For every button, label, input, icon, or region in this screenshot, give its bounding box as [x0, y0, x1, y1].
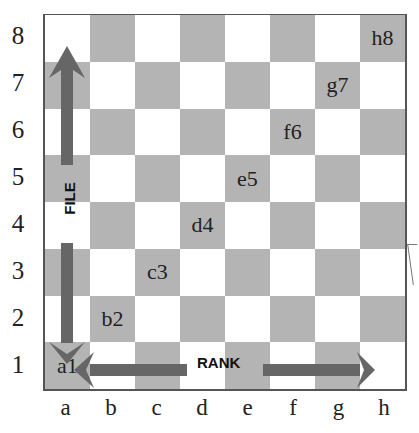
square-b8 — [90, 15, 135, 62]
square-f1 — [270, 342, 315, 389]
square-b7 — [90, 62, 135, 109]
square-f7 — [270, 62, 315, 109]
square-g8 — [315, 15, 360, 62]
cropped-edge-fragment — [407, 244, 419, 285]
square-c7 — [135, 62, 180, 109]
rank-label-8: 8 — [0, 22, 36, 50]
chessboard: h8g7f6e5d4c3b2a1 — [43, 14, 407, 391]
square-g1 — [315, 342, 360, 389]
square-c6 — [135, 109, 180, 156]
square-g4 — [315, 202, 360, 249]
square-b3 — [90, 249, 135, 296]
square-c5 — [135, 155, 180, 202]
square-c4 — [135, 202, 180, 249]
square-d4: d4 — [180, 202, 225, 249]
square-h3 — [360, 249, 405, 296]
square-g6 — [315, 109, 360, 156]
square-e7 — [225, 62, 270, 109]
rank-label: RANK — [197, 354, 240, 371]
file-label-g: g — [316, 395, 361, 421]
rank-label-1: 1 — [0, 351, 36, 379]
file-label-b: b — [89, 395, 134, 421]
square-b6 — [90, 109, 135, 156]
square-c3: c3 — [135, 249, 180, 296]
file-label-a: a — [43, 395, 88, 421]
square-h5 — [360, 155, 405, 202]
square-b5 — [90, 155, 135, 202]
square-f3 — [270, 249, 315, 296]
square-d2 — [180, 296, 225, 343]
square-a8 — [45, 15, 90, 62]
square-d8 — [180, 15, 225, 62]
square-f6: f6 — [270, 109, 315, 156]
square-b4 — [90, 202, 135, 249]
square-g7: g7 — [315, 62, 360, 109]
square-a1: a1 — [45, 342, 90, 389]
square-e2 — [225, 296, 270, 343]
rank-label-6: 6 — [0, 116, 36, 144]
rank-label-3: 3 — [0, 257, 36, 285]
square-d6 — [180, 109, 225, 156]
square-g5 — [315, 155, 360, 202]
file-label-f: f — [271, 395, 316, 421]
square-d5 — [180, 155, 225, 202]
square-h1 — [360, 342, 405, 389]
square-g3 — [315, 249, 360, 296]
square-c1 — [135, 342, 180, 389]
square-b1 — [90, 342, 135, 389]
square-a2 — [45, 296, 90, 343]
square-e4 — [225, 202, 270, 249]
square-b2: b2 — [90, 296, 135, 343]
square-c2 — [135, 296, 180, 343]
file-label-h: h — [362, 395, 407, 421]
rank-label-5: 5 — [0, 163, 36, 191]
file-label: FILE — [61, 181, 78, 217]
square-d3 — [180, 249, 225, 296]
square-e3 — [225, 249, 270, 296]
square-d7 — [180, 62, 225, 109]
square-f4 — [270, 202, 315, 249]
square-f8 — [270, 15, 315, 62]
square-f5 — [270, 155, 315, 202]
square-a6 — [45, 109, 90, 156]
square-h6 — [360, 109, 405, 156]
square-h4 — [360, 202, 405, 249]
file-label-e: e — [225, 395, 270, 421]
square-h7 — [360, 62, 405, 109]
square-h8: h8 — [360, 15, 405, 62]
square-f2 — [270, 296, 315, 343]
square-g2 — [315, 296, 360, 343]
square-e6 — [225, 109, 270, 156]
square-c8 — [135, 15, 180, 62]
square-e5: e5 — [225, 155, 270, 202]
file-label-d: d — [180, 395, 225, 421]
rank-label-7: 7 — [0, 69, 36, 97]
file-label-c: c — [134, 395, 179, 421]
square-a3 — [45, 249, 90, 296]
square-h2 — [360, 296, 405, 343]
rank-label-2: 2 — [0, 304, 36, 332]
rank-label-4: 4 — [0, 210, 36, 238]
square-e8 — [225, 15, 270, 62]
square-a7 — [45, 62, 90, 109]
